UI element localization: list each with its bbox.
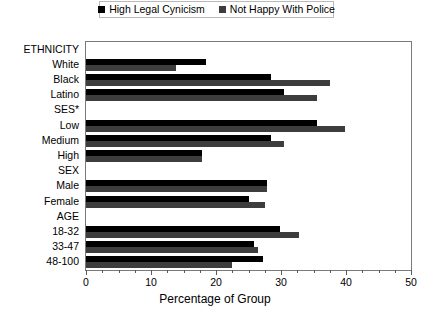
bar-not-happy-with-police-latino	[86, 95, 317, 101]
y-axis-label-18-32: 18-32	[52, 226, 79, 237]
x-tick	[379, 270, 380, 273]
bar-row	[86, 88, 411, 103]
bar-row	[86, 255, 411, 270]
group-header-row	[86, 103, 411, 118]
x-tick	[249, 270, 250, 273]
x-tick	[135, 270, 136, 273]
chart-legend: High Legal Cynicism Not Happy With Polic…	[99, 1, 334, 18]
bar-not-happy-with-police-18-32	[86, 232, 299, 238]
y-axis-label-age: AGE	[57, 211, 79, 222]
y-axis-label-sex: SEX	[58, 165, 79, 176]
x-tick	[395, 270, 396, 273]
bar-not-happy-with-police-33-47	[86, 247, 258, 253]
x-tick-label: 40	[340, 276, 352, 288]
x-tick-label: 50	[405, 276, 417, 288]
y-axis-label-latino: Latino	[50, 89, 79, 100]
x-tick	[119, 270, 120, 273]
y-axis-label-black: Black	[53, 74, 79, 85]
x-tick	[330, 270, 331, 273]
bar-not-happy-with-police-low	[86, 126, 345, 132]
legend-entry-not-happy-with-police: Not Happy With Police	[219, 4, 335, 15]
bar-row	[86, 72, 411, 87]
bar-row	[86, 118, 411, 133]
bar-not-happy-with-police-black	[86, 80, 330, 86]
y-axis-label-ethnicity: ETHNICITY	[24, 44, 79, 55]
y-axis-label-high: High	[57, 150, 79, 161]
y-axis-label-ses: SES*	[54, 104, 79, 115]
x-tick	[411, 270, 412, 275]
x-tick	[265, 270, 266, 273]
x-tick	[297, 270, 298, 273]
legend-entry-high-legal-cynicism: High Legal Cynicism	[98, 4, 205, 15]
bar-row	[86, 148, 411, 163]
x-tick	[102, 270, 103, 273]
y-axis-label-33-47: 33-47	[52, 241, 79, 252]
x-tick-label: 20	[210, 276, 222, 288]
x-tick	[362, 270, 363, 273]
y-axis-label-female: Female	[44, 196, 79, 207]
bar-not-happy-with-police-female	[86, 202, 265, 208]
x-tick-label: 10	[145, 276, 157, 288]
x-tick	[232, 270, 233, 273]
bar-row	[86, 240, 411, 255]
group-header-row	[86, 209, 411, 224]
bar-not-happy-with-police-medium	[86, 141, 284, 147]
x-tick-label: 0	[83, 276, 89, 288]
bar-row	[86, 224, 411, 239]
y-axis-labels: ETHNICITYWhiteBlackLatinoSES*LowMediumHi…	[0, 42, 83, 270]
bar-not-happy-with-police-48-100	[86, 262, 232, 268]
bar-not-happy-with-police-high	[86, 156, 202, 162]
bar-row	[86, 194, 411, 209]
bar-row	[86, 179, 411, 194]
x-tick-label: 30	[275, 276, 287, 288]
y-axis-label-48-100: 48-100	[46, 256, 79, 267]
x-tick	[216, 270, 217, 275]
square-marker-icon	[98, 6, 105, 13]
y-axis-label-medium: Medium	[42, 135, 79, 146]
x-tick	[281, 270, 282, 275]
bar-row	[86, 133, 411, 148]
group-header-row	[86, 42, 411, 57]
x-axis-title: Percentage of Group	[0, 292, 430, 306]
x-tick	[346, 270, 347, 275]
x-axis-tick-labels: 01020304050	[0, 276, 430, 290]
bar-row	[86, 57, 411, 72]
x-tick	[167, 270, 168, 273]
legend-label: Not Happy With Police	[230, 4, 335, 15]
y-axis-label-low: Low	[60, 120, 79, 131]
x-tick	[86, 270, 87, 275]
legend-label: High Legal Cynicism	[109, 4, 205, 15]
square-marker-icon	[219, 6, 226, 13]
bar-not-happy-with-police-white	[86, 65, 176, 71]
x-tick	[151, 270, 152, 275]
x-tick	[184, 270, 185, 273]
x-tick	[200, 270, 201, 273]
y-axis-label-male: Male	[56, 180, 79, 191]
y-axis-label-white: White	[52, 59, 79, 70]
bars-container	[86, 42, 411, 270]
group-header-row	[86, 164, 411, 179]
x-tick	[314, 270, 315, 273]
bar-not-happy-with-police-male	[86, 186, 267, 192]
